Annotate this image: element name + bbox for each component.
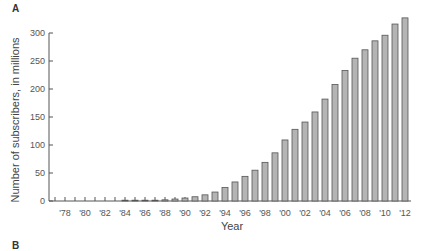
x-tick-label: '86: [139, 208, 151, 218]
bar-1986: [142, 200, 148, 201]
x-tick-label: '10: [379, 208, 391, 218]
bar-2010: [382, 35, 388, 201]
y-tick-label: 100: [30, 140, 45, 150]
bar-1995: [232, 182, 238, 201]
y-tick-label: 50: [35, 168, 45, 178]
bar-2001: [292, 129, 298, 201]
y-tick-label: 300: [30, 28, 45, 38]
x-tick-label: '90: [179, 208, 191, 218]
bar-1985: [132, 200, 138, 201]
bar-1987: [152, 200, 158, 201]
y-tick-label: 250: [30, 56, 45, 66]
x-tick-label: '02: [299, 208, 311, 218]
bar-2000: [282, 140, 288, 201]
bar-1993: [212, 192, 218, 201]
bar-1994: [222, 188, 228, 201]
x-tick-label: '80: [79, 208, 91, 218]
bar-2011: [392, 24, 398, 201]
bar-2007: [352, 58, 358, 201]
x-tick-label: '06: [339, 208, 351, 218]
x-tick-label: '88: [159, 208, 171, 218]
bar-2003: [312, 112, 318, 201]
y-tick-label: 0: [40, 196, 45, 206]
x-tick-label: '98: [259, 208, 271, 218]
bar-2009: [372, 41, 378, 201]
x-tick-label: '92: [199, 208, 211, 218]
x-tick-label: '08: [359, 208, 371, 218]
bar-1991: [192, 197, 198, 201]
bar-1984: [122, 200, 128, 201]
bar-2012: [402, 18, 408, 201]
bar-2006: [342, 71, 348, 201]
bars: [122, 18, 408, 201]
bar-1996: [242, 176, 248, 201]
y-axis: 050100150200250300: [30, 28, 53, 206]
x-tick-label: '84: [119, 208, 131, 218]
bar-1990: [182, 198, 188, 201]
y-tick-label: 150: [30, 112, 45, 122]
bar-2008: [362, 50, 368, 201]
bar-2005: [332, 85, 338, 201]
bar-2004: [322, 99, 328, 201]
x-tick-label: '94: [219, 208, 231, 218]
x-tick-label: '00: [279, 208, 291, 218]
x-tick-label: '82: [99, 208, 111, 218]
bar-1989: [172, 199, 178, 201]
y-tick-label: 200: [30, 84, 45, 94]
x-tick-label: '12: [399, 208, 411, 218]
x-tick-label: '04: [319, 208, 331, 218]
bar-1998: [262, 162, 268, 201]
bar-1997: [252, 170, 258, 201]
x-tick-label: '96: [239, 208, 251, 218]
bar-1992: [202, 195, 208, 201]
bar-1999: [272, 153, 278, 201]
bar-1988: [162, 200, 168, 201]
bar-2002: [302, 122, 308, 201]
x-tick-label: '78: [59, 208, 71, 218]
